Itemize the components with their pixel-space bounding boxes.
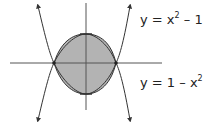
shaded-region — [54, 34, 116, 94]
intersection-right — [114, 61, 118, 65]
label-lower-curve: y = 1 – x2 — [140, 74, 203, 90]
intersection-left — [52, 61, 56, 65]
label-upper-curve: y = x2 – 1 — [140, 11, 203, 27]
